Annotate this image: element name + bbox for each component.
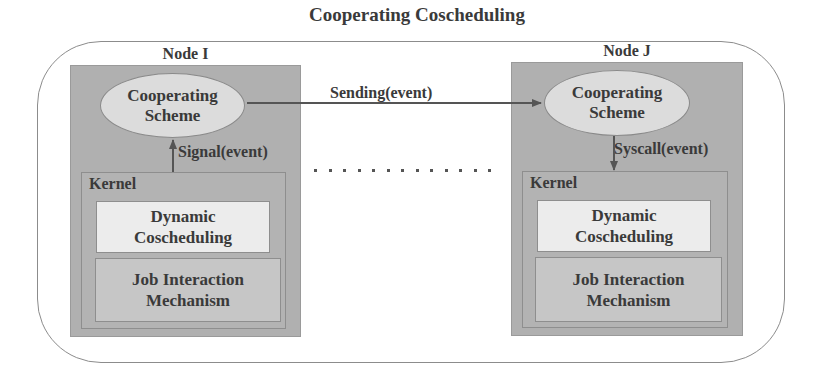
node-j-cooperating-scheme: Cooperating Scheme [544,70,690,136]
node-i-job-line1: Job Interaction [132,269,244,290]
sending-event-label: Sending(event) [330,84,432,102]
node-i-scheme-line1: Cooperating [127,86,218,106]
node-i-job-interaction-mechanism: Job Interaction Mechanism [95,258,281,322]
node-i-dynamic-coscheduling: Dynamic Coscheduling [96,201,270,253]
node-j-job-interaction-mechanism: Job Interaction Mechanism [535,257,722,322]
diagram-title: Cooperating Coscheduling [0,4,818,26]
node-i-job-line2: Mechanism [146,290,230,311]
node-j-dynamic-line2: Coscheduling [575,226,673,247]
node-j-label: Node J [511,42,743,60]
node-j-dynamic-line1: Dynamic [591,205,656,226]
node-j-job-line2: Mechanism [586,290,670,311]
node-j-scheme-line2: Scheme [589,103,645,123]
node-i-label: Node I [70,45,301,63]
node-j-kernel-label: Kernel [530,174,577,192]
node-i-kernel-label: Kernel [89,175,136,193]
signal-event-label: Signal(event) [178,143,268,161]
syscall-event-label: Syscall(event) [614,140,708,158]
node-j-scheme-line1: Cooperating [572,83,663,103]
node-i-dynamic-line1: Dynamic [150,206,215,227]
node-i-cooperating-scheme: Cooperating Scheme [100,73,245,138]
node-i-scheme-line2: Scheme [145,106,201,126]
node-i-dynamic-line2: Coscheduling [134,227,232,248]
node-j-job-line1: Job Interaction [573,269,685,290]
node-j-dynamic-coscheduling: Dynamic Coscheduling [537,200,711,252]
